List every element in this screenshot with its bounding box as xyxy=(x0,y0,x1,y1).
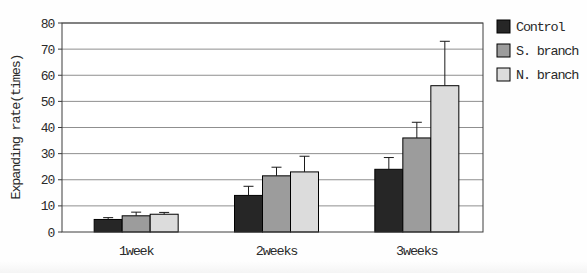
bar-s-branch-2weeks xyxy=(263,176,291,232)
legend-swatch-control xyxy=(497,20,510,33)
legend-swatch-s-branch xyxy=(497,44,510,57)
legend-swatch-n-branch xyxy=(497,68,510,81)
x-category-label-1week: 1week xyxy=(119,244,155,259)
bar-n-branch-3weeks xyxy=(431,86,459,232)
y-tick-label-10: 10 xyxy=(41,199,55,214)
y-tick-label-70: 70 xyxy=(41,43,55,58)
bar-s-branch-1week xyxy=(122,216,150,232)
y-tick-label-60: 60 xyxy=(41,69,55,84)
x-category-label-2weeks: 2weeks xyxy=(256,244,298,259)
y-tick-label-50: 50 xyxy=(41,95,55,110)
bar-n-branch-1week xyxy=(150,214,178,232)
bar-control-2weeks xyxy=(235,195,263,232)
y-tick-label-20: 20 xyxy=(41,173,55,188)
bar-n-branch-2weeks xyxy=(291,172,319,232)
y-tick-label-30: 30 xyxy=(41,147,55,162)
y-tick-label-40: 40 xyxy=(41,121,55,136)
legend-label-control: Control xyxy=(516,20,565,35)
bar-chart: 010203040506070801week2weeks3weeksExpand… xyxy=(0,0,587,273)
legend-label-s-branch: S. branch xyxy=(516,44,578,59)
bar-control-3weeks xyxy=(375,169,403,232)
y-tick-label-80: 80 xyxy=(41,17,55,32)
y-tick-label-0: 0 xyxy=(47,226,54,241)
bar-control-1week xyxy=(94,219,122,232)
legend-label-n-branch: N. branch xyxy=(516,68,578,83)
bar-chart-figure: 010203040506070801week2weeks3weeksExpand… xyxy=(0,0,587,273)
x-category-label-3weeks: 3weeks xyxy=(396,244,438,259)
bar-s-branch-3weeks xyxy=(403,138,431,232)
y-axis-title: Expanding rate(times) xyxy=(9,55,24,200)
